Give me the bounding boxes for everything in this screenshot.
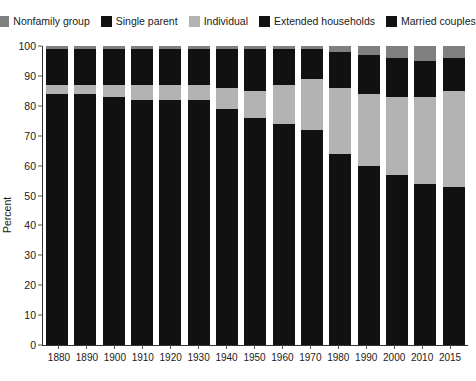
bar-1880: [46, 46, 68, 345]
x-tick-label: 1910: [128, 352, 158, 363]
x-axis: 1880189019001910192019301940195019601970…: [42, 345, 467, 375]
bar-segment: [386, 193, 408, 345]
bar-segment: [188, 100, 210, 148]
x-tick-mark: [114, 345, 115, 349]
x-tick-mark: [226, 345, 227, 349]
bar-segment: [74, 85, 96, 94]
bar-segment: [386, 97, 408, 175]
y-tick-label: 60: [24, 161, 36, 171]
legend-swatch-icon: [259, 16, 270, 27]
bar-segment: [329, 154, 351, 175]
x-tick: 1990: [351, 345, 381, 363]
bar-segment: [131, 49, 153, 85]
y-axis-title: Percent: [1, 180, 15, 250]
bar-segment: [329, 52, 351, 88]
bar-segment: [301, 151, 323, 345]
bar-1940: [216, 46, 238, 345]
bar-group: [43, 46, 468, 345]
x-tick-label: 1970: [295, 352, 325, 363]
x-tick-mark: [282, 345, 283, 349]
bar-segment: [244, 151, 266, 345]
x-tick-mark: [170, 345, 171, 349]
x-tick-label: 2010: [407, 352, 437, 363]
x-tick: 1960: [267, 345, 297, 363]
bar-1950: [244, 46, 266, 345]
bar-segment: [188, 49, 210, 85]
bar-segment: [103, 49, 125, 85]
bar-segment: [216, 151, 238, 345]
bar-segment: [414, 184, 436, 202]
legend-item: Married couples: [386, 16, 476, 27]
y-tick-label: 20: [24, 280, 36, 290]
x-tick: 1930: [184, 345, 214, 363]
bar-segment: [443, 213, 465, 345]
bar-segment: [273, 49, 295, 85]
bar-segment: [386, 46, 408, 58]
x-tick-label: 1980: [323, 352, 353, 363]
x-tick: 1890: [72, 345, 102, 363]
legend-swatch-icon: [386, 16, 397, 27]
x-tick: 1920: [156, 345, 186, 363]
legend-swatch-icon: [101, 16, 112, 27]
bar-1980: [329, 46, 351, 345]
bar-segment: [386, 175, 408, 193]
plot-area: [42, 46, 468, 346]
bar-segment: [301, 49, 323, 79]
bar-segment: [188, 85, 210, 100]
bar-segment: [216, 49, 238, 88]
bar-segment: [414, 61, 436, 97]
bar-segment: [46, 94, 68, 148]
bar-segment: [159, 49, 181, 85]
bar-segment: [358, 46, 380, 55]
bar-2015: [443, 46, 465, 345]
x-tick: 1940: [212, 345, 242, 363]
legend-label: Extended households: [274, 16, 375, 27]
chart-legend: Nonfamily groupSingle parentIndividualEx…: [0, 12, 474, 30]
bar-segment: [273, 85, 295, 124]
x-tick: 2000: [379, 345, 409, 363]
legend-item: Nonfamily group: [0, 16, 90, 27]
x-tick-label: 1880: [44, 352, 74, 363]
bar-segment: [386, 58, 408, 97]
bar-1920: [159, 46, 181, 345]
bar-1930: [188, 46, 210, 345]
bar-segment: [301, 130, 323, 151]
y-tick-label: 100: [18, 41, 36, 51]
x-tick: 2010: [407, 345, 437, 363]
bar-segment: [131, 100, 153, 148]
y-axis: 1009080706050403020100: [14, 30, 42, 381]
bar-segment: [414, 46, 436, 61]
bar-1960: [273, 46, 295, 345]
bar-segment: [443, 187, 465, 214]
legend-label: Individual: [204, 16, 248, 27]
x-tick-mark: [450, 345, 451, 349]
legend-swatch-icon: [189, 16, 200, 27]
y-tick-label: 90: [24, 71, 36, 81]
x-tick: 1950: [240, 345, 270, 363]
x-tick-label: 2015: [435, 352, 465, 363]
bar-segment: [244, 91, 266, 118]
bar-segment: [244, 118, 266, 151]
bar-segment: [74, 49, 96, 85]
x-tick: 1900: [100, 345, 130, 363]
x-tick: 1910: [128, 345, 158, 363]
x-tick-label: 1900: [100, 352, 130, 363]
x-tick-mark: [142, 345, 143, 349]
bar-segment: [414, 97, 436, 184]
bar-segment: [216, 109, 238, 151]
bar-2000: [386, 46, 408, 345]
bar-segment: [216, 88, 238, 109]
x-tick-label: 1890: [72, 352, 102, 363]
bar-segment: [329, 175, 351, 345]
bar-segment: [443, 46, 465, 58]
x-tick-mark: [366, 345, 367, 349]
chart-area: Percent 1009080706050403020100 188018901…: [0, 30, 474, 381]
bar-segment: [301, 79, 323, 130]
y-tick-label: 0: [30, 340, 36, 350]
bar-segment: [159, 85, 181, 100]
bar-segment: [414, 201, 436, 345]
bar-1890: [74, 46, 96, 345]
bar-segment: [74, 94, 96, 154]
bar-segment: [358, 187, 380, 345]
legend-item: Extended households: [259, 16, 375, 27]
